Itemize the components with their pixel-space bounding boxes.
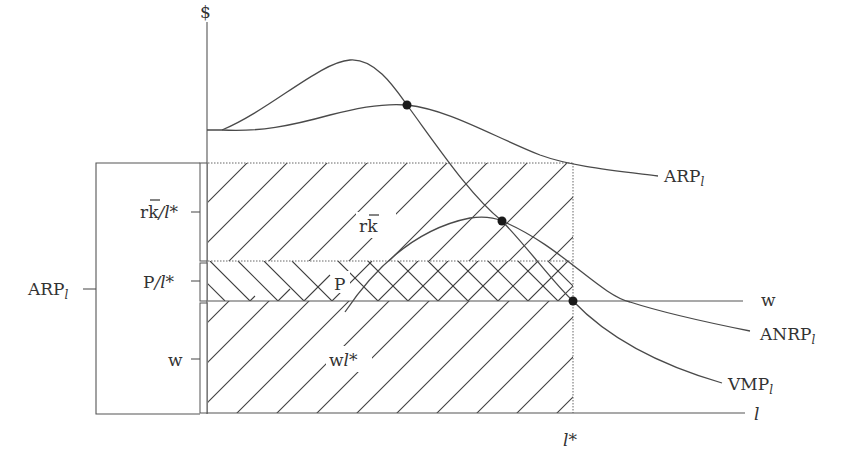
profit-region-label: P [334,274,345,294]
y-axis-label: $ [200,2,211,22]
factor-income-diagram: $ l l* ARPl w ANRPl VMPl rk P wl* rk/l* … [0,0,849,465]
capital-region-label: rk [359,216,378,236]
arp-bracket-label: ARPl [27,279,69,302]
left-share-bar [200,163,207,413]
anrp-vmp-point [498,217,507,226]
x-axis-label: l [754,404,759,424]
arp-curve-label: ARPl [663,166,705,189]
profit-region-hatch [185,261,598,301]
wage-vmp-point [569,297,578,306]
wages-region-label: wl* [329,350,358,370]
w-left-label: w [168,350,183,370]
arp-vmp-point [403,101,412,110]
wages-region-hatch [110,290,680,420]
l-star-label: l* [563,430,577,450]
anrp-curve-label: ANRPl [759,324,815,347]
rk-per-l-label: rk/l* [140,202,179,222]
vmp-curve-label: VMPl [727,374,773,397]
vmp-curve [222,60,722,383]
w-curve-label: w [761,290,776,310]
p-per-l-label: P/l* [143,272,175,292]
